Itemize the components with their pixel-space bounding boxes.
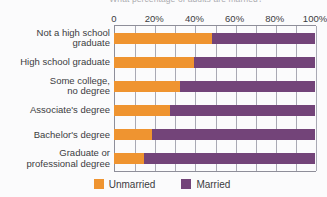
x-tick-label-100: 100% [303, 13, 327, 25]
chart-legend: UnmarriedMarried [0, 176, 324, 192]
x-tick-label-0: 0 [111, 13, 116, 25]
legend-swatch-icon [94, 179, 104, 189]
chart-title: What percentage of adults are married? [86, 0, 286, 4]
bar-segment-married [144, 153, 315, 164]
bar-segment-married [170, 105, 315, 116]
bar-row [114, 129, 315, 140]
bar-segment-unmarried [114, 129, 152, 140]
legend-label: Married [196, 179, 230, 190]
bar-row [114, 57, 315, 68]
bar-segment-unmarried [114, 57, 194, 68]
x-tick-label-80: 80% [265, 13, 284, 25]
plot-bottom-border [114, 171, 316, 172]
legend-swatch-icon [181, 179, 191, 189]
x-tick-label-40: 40% [185, 13, 204, 25]
category-label: Not a high school graduate [0, 28, 110, 49]
bar-segment-unmarried [114, 153, 144, 164]
category-label: High school graduate [0, 57, 110, 68]
bar-row [114, 105, 315, 116]
bar-segment-unmarried [114, 33, 212, 44]
x-tick-label-20: 20% [145, 13, 164, 25]
bar-row [114, 81, 315, 92]
category-label: Bachelor's degree [0, 130, 110, 141]
bar-segment-married [194, 57, 315, 68]
category-axis-labels: Not a high school graduateHigh school gr… [0, 26, 110, 171]
legend-item[interactable]: Unmarried [94, 179, 156, 190]
gridline-100 [316, 26, 317, 171]
bar-segment-unmarried [114, 105, 170, 116]
bar-row [114, 33, 315, 44]
bar-row [114, 153, 315, 164]
bar-segment-married [152, 129, 315, 140]
category-label: Associate's degree [0, 105, 110, 116]
bar-series-container [114, 26, 315, 171]
category-label: Graduate or professional degree [0, 148, 110, 169]
bar-segment-married [212, 33, 315, 44]
category-label: Some college, no degree [0, 76, 110, 97]
bar-segment-married [180, 81, 315, 92]
x-tick-label-60: 60% [225, 13, 244, 25]
legend-item[interactable]: Married [181, 179, 230, 190]
bar-segment-unmarried [114, 81, 180, 92]
x-axis-tick-labels: 020%40%60%80%100% [0, 13, 324, 25]
legend-label: Unmarried [109, 179, 156, 190]
